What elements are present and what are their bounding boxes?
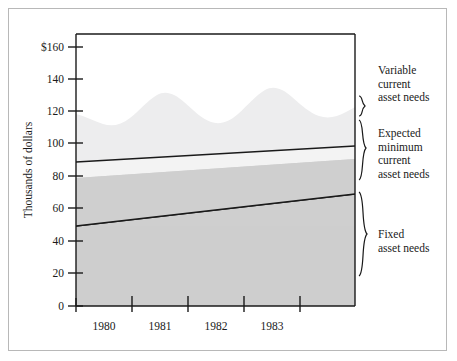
y-tick-label-60: 60 bbox=[53, 202, 65, 214]
legend-fixed-label: Fixed asset needs bbox=[378, 228, 429, 255]
brace-fixed bbox=[359, 192, 367, 276]
y-tick-label-140: 140 bbox=[47, 73, 65, 85]
legend-expected-label: Expected minimum current asset needs bbox=[378, 127, 429, 181]
fixed-band-tone bbox=[76, 226, 355, 306]
y-tick-label-100: 100 bbox=[47, 137, 65, 149]
y-tick-label-80: 80 bbox=[53, 170, 65, 182]
brace-expected bbox=[359, 120, 366, 180]
x-tick-label-1982: 1982 bbox=[205, 320, 228, 332]
y-tick-label-160: $160 bbox=[41, 41, 64, 53]
area-bands bbox=[76, 88, 355, 306]
legend-braces bbox=[359, 96, 367, 276]
x-tick-labels: 1980 1981 1982 1983 bbox=[93, 320, 284, 332]
y-tick-label-20: 20 bbox=[53, 267, 65, 279]
x-tick-label-1980: 1980 bbox=[93, 320, 116, 332]
y-tick-label-40: 40 bbox=[53, 235, 65, 247]
y-tick-labels: $160 140 120 100 80 60 40 20 0 bbox=[41, 41, 64, 312]
y-tick-label-0: 0 bbox=[58, 300, 64, 312]
y-axis-title: Thousands of dollars bbox=[22, 121, 34, 218]
brace-variable bbox=[359, 96, 365, 116]
x-tick-label-1983: 1983 bbox=[261, 320, 284, 332]
y-tick-label-120: 120 bbox=[47, 105, 65, 117]
x-tick-label-1981: 1981 bbox=[149, 320, 172, 332]
legend-variable-label: Variable current asset needs bbox=[378, 64, 429, 105]
